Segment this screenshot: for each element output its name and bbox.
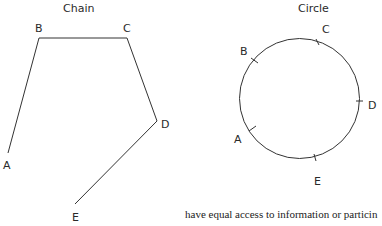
chain-node-a: A xyxy=(3,159,11,172)
circle-ring xyxy=(240,39,360,159)
circle-tick-e xyxy=(314,154,316,161)
chain-node-d: D xyxy=(161,118,169,131)
circle-node-c: C xyxy=(322,23,330,36)
network-diagram: Chain A B C D E Circle C B D A E xyxy=(0,0,382,226)
chain-node-e: E xyxy=(72,211,79,224)
circle-node-d: D xyxy=(368,99,376,112)
circle-title: Circle xyxy=(298,2,329,15)
circle-node-e: E xyxy=(314,175,321,188)
chain-node-c: C xyxy=(123,22,131,35)
chain-node-b: B xyxy=(35,22,43,35)
caption-text: have equal access to information or part… xyxy=(185,208,377,220)
circle-node-a: A xyxy=(234,133,242,146)
circle-node-b: B xyxy=(240,45,248,58)
chain-title: Chain xyxy=(63,2,94,15)
chain-path xyxy=(8,38,157,204)
circle-tick-a xyxy=(249,126,256,131)
